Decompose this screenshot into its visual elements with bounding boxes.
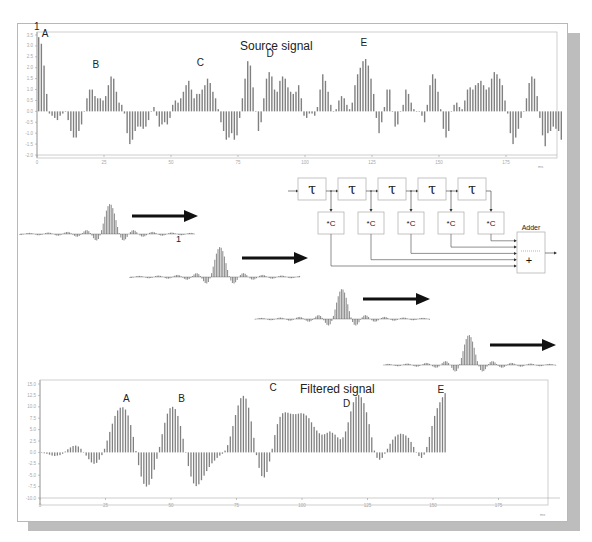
figure-canvas: 3.53.02.52.01.51.00.50.0-0.5-1.0-1.5-2.0…	[0, 0, 592, 542]
bar	[244, 79, 245, 112]
bar	[303, 414, 304, 453]
bar	[206, 452, 207, 471]
bar	[518, 111, 519, 128]
bar	[65, 111, 66, 112]
bar	[329, 431, 330, 452]
bar	[137, 111, 138, 126]
bar	[363, 403, 364, 452]
x-tick-label: 50	[168, 160, 174, 165]
bar	[279, 417, 280, 453]
bar	[51, 452, 52, 455]
bar	[368, 66, 369, 112]
bar	[480, 81, 481, 112]
bar	[196, 452, 197, 486]
bar	[83, 452, 84, 453]
bar	[424, 452, 425, 454]
bar	[38, 37, 39, 111]
bar	[290, 414, 291, 453]
bar	[143, 452, 144, 483]
bar	[389, 90, 390, 112]
bar	[43, 66, 44, 112]
bar	[392, 440, 393, 453]
bar	[456, 103, 457, 112]
bar	[285, 79, 286, 112]
bar	[146, 452, 147, 486]
bar	[46, 94, 47, 111]
bar	[182, 439, 183, 453]
tau-symbol: τ	[428, 181, 436, 197]
bar	[177, 416, 178, 452]
bar	[461, 109, 462, 111]
bar	[290, 92, 291, 112]
bar	[260, 111, 261, 122]
bar	[268, 72, 269, 111]
bar	[421, 452, 422, 457]
bar	[46, 452, 47, 453]
bar	[212, 92, 213, 112]
bar	[558, 111, 559, 131]
bar	[366, 412, 367, 452]
bar	[204, 85, 205, 111]
bar	[62, 111, 63, 113]
delay-block: τ	[458, 178, 493, 212]
bar	[234, 111, 235, 139]
bar	[464, 100, 465, 111]
bar	[141, 452, 142, 476]
bar	[78, 446, 79, 452]
peak-label: E	[361, 37, 368, 48]
x-tick-label: 125	[368, 160, 376, 165]
filtered-y-ticks: 15.012.510.07.55.02.50.0-2.5-5.0-7.5-10.…	[26, 382, 40, 501]
bar	[231, 111, 232, 133]
bar	[175, 100, 176, 111]
bar	[362, 61, 363, 111]
bar	[198, 452, 199, 484]
bar	[345, 431, 346, 452]
source-x-unit: ms	[538, 164, 543, 169]
bar	[124, 111, 125, 113]
bar	[70, 111, 71, 131]
bar	[274, 90, 275, 112]
bar	[129, 111, 130, 144]
bar	[209, 452, 210, 467]
bar	[293, 414, 294, 452]
delay-block: τ	[418, 178, 458, 212]
bar	[277, 424, 278, 452]
bar	[327, 92, 328, 112]
bar	[313, 427, 314, 453]
bar	[321, 435, 322, 453]
bar	[132, 111, 133, 139]
bar	[105, 96, 106, 111]
bar	[196, 94, 197, 111]
bar	[203, 452, 204, 475]
bar	[107, 441, 108, 453]
bar	[536, 96, 537, 111]
bar	[322, 74, 323, 111]
bar	[389, 444, 390, 453]
bar	[114, 416, 115, 452]
arrow-right-icon	[490, 339, 556, 351]
bar	[113, 79, 114, 112]
bar	[316, 431, 317, 453]
wavelet	[255, 289, 430, 325]
bar	[220, 111, 221, 122]
bar	[266, 452, 267, 472]
bar	[117, 410, 118, 452]
bar	[238, 405, 239, 452]
bar	[97, 98, 98, 111]
bar	[534, 79, 535, 112]
bar	[478, 83, 479, 111]
bar	[67, 449, 68, 452]
y-tick-label: -5.0	[28, 473, 36, 478]
bar	[121, 105, 122, 112]
bar	[86, 452, 87, 455]
y-tick-label: 15.0	[27, 382, 36, 387]
bar	[496, 74, 497, 111]
bar	[199, 94, 200, 111]
bar	[99, 452, 100, 459]
bar	[235, 415, 236, 452]
bar	[512, 111, 513, 144]
x-tick-label: 175	[495, 503, 503, 508]
bar	[394, 111, 395, 126]
marker-one-mid: 1	[176, 234, 181, 244]
bar	[504, 100, 505, 111]
